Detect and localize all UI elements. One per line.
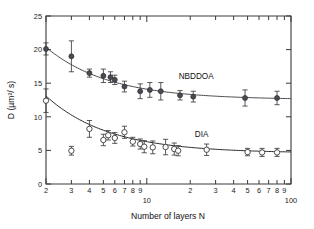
data-point-group bbox=[138, 84, 143, 99]
y-axis-ticks bbox=[46, 16, 291, 184]
data-point bbox=[245, 149, 250, 154]
x-axis-ticks bbox=[46, 16, 291, 184]
x-tick-label: 4 bbox=[87, 186, 91, 195]
data-point bbox=[243, 95, 248, 100]
data-point-group bbox=[106, 131, 111, 140]
data-point-group bbox=[245, 148, 250, 155]
fit-curve-dia bbox=[46, 96, 291, 152]
x-tick-label: 8 bbox=[275, 186, 279, 195]
data-point-group bbox=[101, 69, 106, 82]
data-point-group bbox=[69, 146, 74, 155]
data-point bbox=[191, 94, 196, 99]
data-point bbox=[101, 73, 106, 78]
x-tick-label: 3 bbox=[214, 186, 218, 195]
data-point bbox=[87, 126, 92, 131]
plot-frame bbox=[46, 16, 291, 184]
data-point-group bbox=[274, 91, 279, 104]
x-tick-label: 7 bbox=[122, 186, 126, 195]
data-point bbox=[178, 93, 183, 98]
data-point bbox=[204, 147, 209, 152]
y-tick-label: 5 bbox=[38, 146, 42, 155]
data-point bbox=[101, 137, 106, 142]
data-series bbox=[43, 41, 279, 157]
data-point bbox=[69, 54, 74, 59]
fit-curve-nbddoa bbox=[46, 47, 291, 98]
y-tick-label: 10 bbox=[34, 113, 42, 122]
x-tick-label: 6 bbox=[113, 186, 117, 195]
data-point bbox=[158, 89, 163, 94]
data-point bbox=[87, 71, 92, 76]
x-tick-label: 9 bbox=[138, 186, 142, 195]
data-point-group bbox=[158, 83, 163, 100]
x-tick-label: 5 bbox=[101, 186, 105, 195]
data-point bbox=[259, 150, 264, 155]
data-point bbox=[122, 130, 127, 135]
series-nbddoa bbox=[43, 41, 279, 106]
x-tick-label: 4 bbox=[232, 186, 236, 195]
y-tick-label: 0 bbox=[38, 180, 42, 189]
data-point bbox=[43, 98, 48, 103]
x-tick-label: 2 bbox=[44, 186, 48, 195]
data-point-group bbox=[43, 43, 48, 55]
data-point bbox=[69, 148, 74, 153]
data-point-group bbox=[87, 120, 92, 137]
data-point-group bbox=[87, 69, 92, 77]
data-point-group bbox=[122, 81, 127, 92]
data-point-group bbox=[259, 148, 264, 156]
data-point bbox=[112, 77, 117, 82]
y-tick-label: 15 bbox=[34, 79, 42, 88]
data-point bbox=[275, 95, 280, 100]
y-tick-label: 25 bbox=[34, 12, 42, 21]
data-point bbox=[274, 150, 279, 155]
data-point bbox=[130, 139, 135, 144]
data-point bbox=[138, 89, 143, 94]
data-point bbox=[122, 84, 127, 89]
x-tick-label: 8 bbox=[131, 186, 135, 195]
series-label-dia: DIA bbox=[195, 130, 209, 139]
x-tick-label: 10 bbox=[143, 196, 151, 205]
y-axis-tick-labels: 0510152025 bbox=[34, 12, 42, 189]
data-point bbox=[147, 87, 152, 92]
data-point bbox=[175, 148, 180, 153]
data-point-group bbox=[242, 90, 247, 106]
data-point-group bbox=[43, 89, 48, 113]
x-tick-label: 5 bbox=[246, 186, 250, 195]
data-point-group bbox=[163, 139, 168, 154]
x-axis-title: Number of layers N bbox=[131, 211, 205, 221]
data-point bbox=[106, 133, 111, 138]
x-tick-label: 3 bbox=[69, 186, 73, 195]
data-point bbox=[142, 144, 147, 149]
series-label-nbddoa: NBDDOA bbox=[179, 72, 215, 81]
diffusion-coefficient-chart: 0510152025 234567891023456789100 NBDDOAD… bbox=[0, 0, 314, 229]
data-point-group bbox=[191, 91, 196, 102]
x-tick-label: 6 bbox=[257, 186, 261, 195]
figure-container: 0510152025 234567891023456789100 NBDDOAD… bbox=[0, 0, 314, 229]
y-axis-title: D (µm²/ s) bbox=[6, 81, 16, 119]
data-point bbox=[163, 144, 168, 149]
x-tick-label: 7 bbox=[267, 186, 271, 195]
data-point bbox=[112, 135, 117, 140]
data-point-group bbox=[147, 83, 152, 98]
y-tick-label: 20 bbox=[34, 45, 42, 54]
data-point bbox=[150, 145, 155, 150]
data-point-group bbox=[177, 91, 182, 100]
x-tick-label: 2 bbox=[188, 186, 192, 195]
data-point-group bbox=[204, 144, 209, 155]
fitted-curves bbox=[46, 47, 291, 152]
x-axis-tick-labels: 234567891023456789100 bbox=[44, 186, 297, 205]
x-tick-label: 9 bbox=[282, 186, 286, 195]
data-point bbox=[44, 46, 49, 51]
data-point-group bbox=[274, 148, 279, 156]
series-annotations: NBDDOADIA bbox=[179, 72, 215, 139]
data-point-group bbox=[69, 41, 74, 72]
x-tick-label: 100 bbox=[285, 196, 297, 205]
